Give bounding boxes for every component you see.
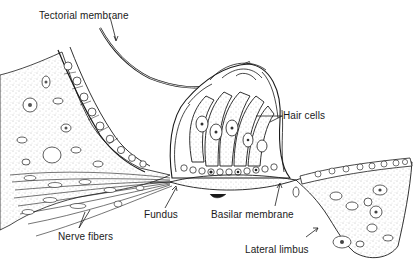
label-nerve-fibers: Nerve fibers [58,232,113,242]
label-fundus: Fundus [144,210,178,220]
label-basilar-membrane: Basilar membrane [211,210,294,220]
label-tectorial-membrane: Tectorial membrane [39,11,129,21]
label-lateral-limbus: Lateral limbus [245,245,309,255]
right-tissue-region [293,158,412,258]
label-hair-cells: Hair cells [283,111,325,121]
